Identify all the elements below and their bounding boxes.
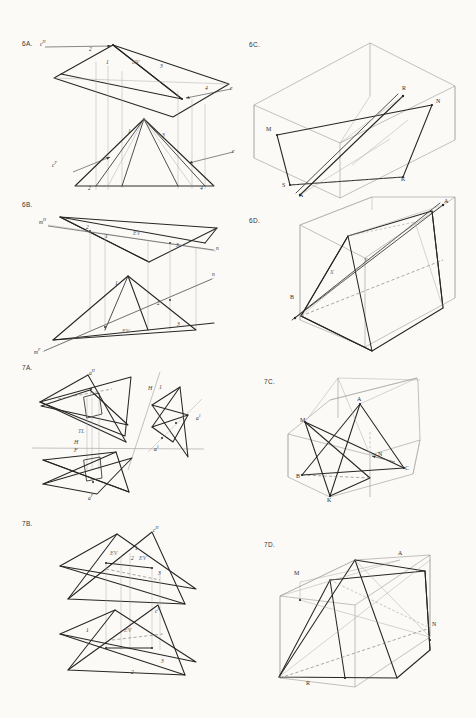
label-6a-point-4-bottom: 4 xyxy=(200,186,203,192)
label-6b-point-1-bottom: 1 xyxy=(115,281,118,287)
label-6d-point-y: Y xyxy=(364,257,367,263)
label-7b-edge-view-2: EV xyxy=(139,555,146,561)
label-7a-point-a-1-lower: a1 xyxy=(154,445,159,452)
label-7a-fold-h1-one: 1 xyxy=(159,384,162,390)
label-6b-point-n-bottom: n xyxy=(212,272,215,278)
problem-number-7b: 7B. xyxy=(22,521,33,528)
label-6c-point-r: R xyxy=(402,85,406,91)
label-7b-point-2-bottom: 2 xyxy=(131,670,134,676)
problem-number-7c: 7C. xyxy=(264,379,275,386)
label-7c-point-c: C xyxy=(405,465,409,471)
problem-number-6d: 6D. xyxy=(249,218,260,225)
label-6d-point-b: B xyxy=(290,294,294,300)
label-6b-point-3-bottom: 3 xyxy=(177,322,180,328)
figure-6D xyxy=(292,197,455,351)
figure-7C xyxy=(288,378,420,497)
label-7a-point-a-1: a1 xyxy=(196,414,201,421)
label-6b-point-2-bottom: 2 xyxy=(157,301,160,307)
label-6c-point-k: K xyxy=(401,176,405,182)
label-7b-point-1-bottom: 1 xyxy=(86,628,89,634)
label-6c-point-a: A xyxy=(299,192,303,198)
label-7a-point-a-h: aH xyxy=(89,369,95,376)
figure-6C xyxy=(254,43,455,198)
label-6a-point-e-top: e xyxy=(230,86,232,92)
label-6c-point-s: S xyxy=(282,182,285,188)
label-7c-point-a: A xyxy=(357,396,361,402)
label-6a-point-2-top: 2 xyxy=(89,47,92,53)
label-7d-point-r: R xyxy=(306,680,310,686)
label-6b-point-m-h: mH xyxy=(39,218,46,225)
figure-7A xyxy=(32,372,204,494)
label-6a-point-e-bottom: e xyxy=(232,149,234,155)
label-6a-edge-view: EV xyxy=(132,59,139,65)
label-6d-point-x: X xyxy=(330,269,334,275)
label-7a-fold-f: F xyxy=(74,447,78,453)
label-6b-point-3-top: 3 xyxy=(176,243,179,249)
label-7b-point-c-f: cF xyxy=(155,607,160,614)
worksheet-sheet: .obj { fill:none; stroke:#262626; stroke… xyxy=(0,0,476,718)
label-7d-point-a: A xyxy=(398,550,402,556)
problem-number-7a: 7A. xyxy=(22,365,33,372)
label-7b-point-c-h: cH xyxy=(153,526,158,533)
label-6a-point-4-top: 4 xyxy=(205,86,208,92)
label-6c-point-m: M xyxy=(266,126,271,132)
label-7b-edge-view-3: EV xyxy=(124,627,131,633)
label-7b-point-3-bottom: 3 xyxy=(161,659,164,665)
problem-number-7d: 7D. xyxy=(264,542,275,549)
label-6d-point-a: A xyxy=(444,198,448,204)
label-6c-point-n: N xyxy=(436,98,440,104)
label-6a-point-3-bottom: 3 xyxy=(162,133,165,139)
label-7d-point-m: M xyxy=(294,570,299,576)
label-7c-point-m: M xyxy=(300,417,305,423)
label-7c-point-k: K xyxy=(327,497,331,503)
label-7a-point-a-f: aF xyxy=(88,494,93,501)
problem-number-6c: 6C. xyxy=(249,42,260,49)
label-6a-point-1-bottom: 1 xyxy=(128,129,131,135)
label-6a-point-c-f: cF xyxy=(52,161,57,168)
label-7a-true-length: TL xyxy=(78,428,85,434)
label-7d-point-n: N xyxy=(432,621,436,627)
problem-number-6a: 6A. xyxy=(22,41,33,48)
label-6b-edge-view-top: EV xyxy=(133,230,140,236)
label-7c-point-n: N xyxy=(378,451,382,457)
figure-6A xyxy=(45,44,233,190)
label-7b-point-2-top: 2 xyxy=(131,556,134,562)
label-7b-point-1-top: 1 xyxy=(135,546,138,552)
label-6a-point-3-top: 3 xyxy=(160,64,163,70)
label-6b-point-2-top: 2 xyxy=(86,225,89,231)
label-7a-fold-h1-h: H xyxy=(148,385,152,391)
figure-6B xyxy=(42,217,217,352)
label-6b-edge-view-bottom: EV xyxy=(122,328,129,334)
label-6b-point-1-top: 1 xyxy=(105,234,108,240)
label-6b-point-m-f: mF xyxy=(34,348,40,355)
label-7b-point-3-top: 3 xyxy=(158,571,161,577)
problem-number-6b: 6B. xyxy=(22,202,33,209)
drawing-canvas: .obj { fill:none; stroke:#262626; stroke… xyxy=(0,0,476,718)
figure-7D xyxy=(279,555,431,687)
label-7b-edge-view-1: EV xyxy=(110,550,117,556)
label-7c-point-b: B xyxy=(296,473,300,479)
label-6a-point-c-h: cH xyxy=(40,40,45,47)
label-6a-point-1-top: 1 xyxy=(106,60,109,66)
label-6b-point-n-top: n xyxy=(216,246,219,252)
label-6a-point-2-bottom: 2 xyxy=(88,186,91,192)
figure-7B xyxy=(60,532,196,675)
label-7a-fold-h: H xyxy=(74,439,78,445)
